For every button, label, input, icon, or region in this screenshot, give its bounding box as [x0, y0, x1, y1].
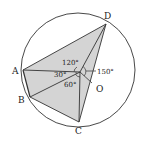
label-point-a: A	[11, 66, 19, 76]
geometry-diagram: D A B C O 120° 30° 60° 150°	[0, 0, 143, 144]
label-angle-120: 120°	[62, 59, 79, 67]
label-angle-150: 150°	[97, 68, 114, 76]
label-point-d: D	[104, 11, 111, 21]
label-point-b: B	[18, 95, 25, 105]
label-point-o: O	[96, 84, 103, 94]
label-point-c: C	[75, 126, 82, 136]
label-angle-60: 60°	[64, 81, 76, 89]
label-angle-30: 30°	[54, 71, 66, 79]
